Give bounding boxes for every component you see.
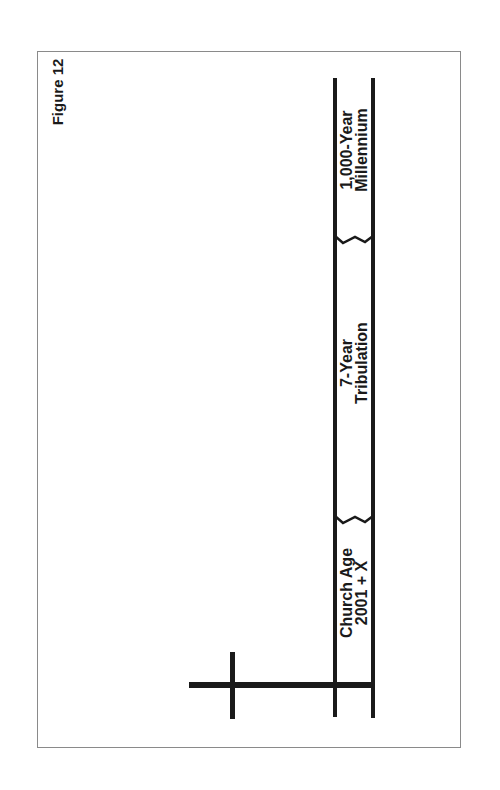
break-marker-icon	[335, 512, 373, 528]
cross-horizontal-bar	[189, 682, 375, 688]
cross-vertical-bar	[230, 652, 235, 719]
segment-label-millennium: 1,000-Year Millennium	[339, 98, 369, 202]
segment-subtitle: 2001 + X	[354, 538, 369, 648]
segment-title: 7-Year	[339, 293, 354, 433]
segment-subtitle: Tribulation	[354, 293, 369, 433]
segment-title: 1,000-Year	[339, 98, 354, 202]
figure-frame	[37, 51, 461, 748]
segment-label-tribulation: 7-Year Tribulation	[339, 293, 369, 433]
segment-label-church-age: Church Age 2001 + X	[339, 538, 369, 648]
timeline-rail-left	[333, 78, 337, 717]
segment-title: Church Age	[339, 538, 354, 648]
segment-subtitle: Millennium	[354, 98, 369, 202]
break-marker-icon	[335, 232, 373, 248]
figure-label: Figure 12	[49, 56, 66, 128]
timeline-rail-right	[371, 78, 375, 718]
